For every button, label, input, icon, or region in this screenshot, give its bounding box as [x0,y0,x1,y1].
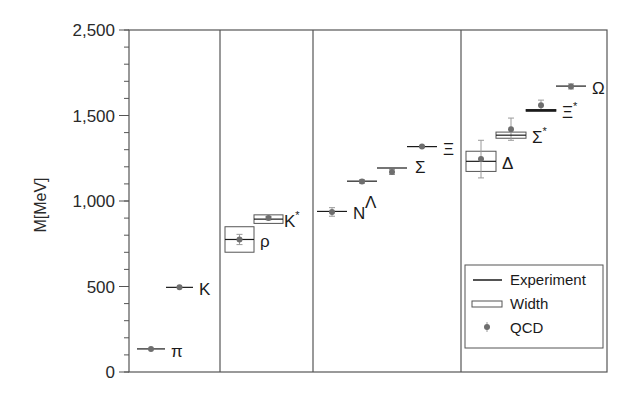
qcd-point [237,236,243,242]
legend-qcd-label: QCD [510,319,544,336]
qcd-point [389,169,395,175]
particle-label: K* [284,209,300,231]
qcd-point [568,83,574,89]
y-tick-label: 500 [87,278,115,297]
panel-decuplet-baryons: ΔΣ*Ξ*Ω [466,79,605,178]
y-axis-label: M[MeV] [32,177,49,232]
particle-Σ-star: Σ* [496,118,548,147]
particle-π: π [137,342,183,361]
particle-label: Ξ* [562,100,578,122]
qcd-point [538,102,544,108]
legend: Experiment Width QCD [465,265,603,348]
particle-label: Σ* [532,125,548,147]
qcd-point [359,179,365,185]
particle-label: Ω [592,79,605,98]
particle-label: Σ [415,158,426,177]
qcd-point [478,156,484,162]
qcd-point [266,215,272,221]
particle-ρ: ρ [225,227,270,252]
particle-Ξ-star: Ξ* [526,100,578,122]
qcd-point [329,209,335,215]
particle-label-superscript: * [295,209,300,221]
legend-width-swatch [472,301,502,307]
qcd-point [419,144,425,150]
y-tick-label: 1,500 [72,107,115,126]
panel-vector-mesons: ρK* [225,209,300,252]
particle-K: K [166,280,211,299]
legend-experiment-label: Experiment [510,271,587,288]
particle-label-superscript: * [543,125,548,137]
particle-label: K [199,280,211,299]
particle-K-star: K* [254,209,300,231]
qcd-point [148,346,154,352]
particle-Δ: Δ [466,140,513,178]
particle-N: N [317,204,365,223]
particle-label: Λ [365,193,377,212]
y-axis: 05001,0001,5002,500 [72,21,129,382]
legend-width-label: Width [510,295,548,312]
particle-label: π [171,342,183,361]
particle-label: Δ [502,154,513,173]
panel-pseudoscalar-mesons: πK [137,280,211,361]
legend-qcd-marker [484,324,490,330]
y-tick-label: 2,500 [72,21,115,40]
y-tick-label: 1,000 [72,192,115,211]
particle-label: N [353,204,365,223]
mass-spectrum-chart: M[MeV] 05001,0001,5002,500 πKρK*NΛΣΞΔΣ*Ξ… [0,0,640,393]
qcd-point [177,284,183,290]
y-tick-label: 0 [106,363,115,382]
panel-octet-baryons: NΛΣΞ [317,140,454,224]
qcd-point [508,126,514,132]
particle-Σ: Σ [377,158,426,177]
particle-Ω: Ω [556,79,605,98]
particle-Ξ: Ξ [407,140,454,159]
particle-label: ρ [260,232,270,251]
particle-label-superscript: * [573,100,578,112]
particle-label: Ξ [443,140,454,159]
